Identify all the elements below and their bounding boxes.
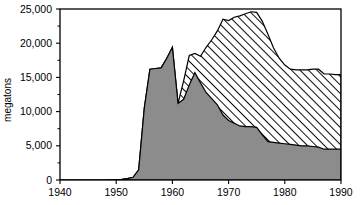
x-tick-label: 1970 bbox=[217, 186, 241, 198]
x-tick-label: 1980 bbox=[273, 186, 297, 198]
y-axis-title: megatons bbox=[2, 78, 13, 122]
x-tick-label: 1950 bbox=[105, 186, 129, 198]
y-tick-label: 25,000 bbox=[20, 3, 52, 15]
chart-container: 05,00010,00015,00020,00025,000 194019501… bbox=[0, 0, 363, 205]
y-axis-tick-labels: 05,00010,00015,00020,00025,000 bbox=[20, 3, 52, 186]
x-axis-tick-labels: 194019501960197019801990 bbox=[48, 186, 353, 198]
x-tick-label: 1940 bbox=[48, 186, 72, 198]
y-tick-label: 5,000 bbox=[26, 139, 52, 151]
y-tick-label: 15,000 bbox=[20, 71, 52, 83]
y-tick-label: 0 bbox=[46, 174, 52, 186]
y-tick-label: 10,000 bbox=[20, 105, 52, 117]
x-tick-label: 1960 bbox=[161, 186, 185, 198]
megatons-area-chart: 05,00010,00015,00020,00025,000 194019501… bbox=[0, 0, 363, 205]
y-tick-label: 20,000 bbox=[20, 37, 52, 49]
x-tick-label: 1990 bbox=[329, 186, 353, 198]
